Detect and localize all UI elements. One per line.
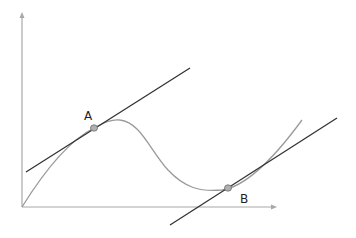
x-axis-arrow-icon xyxy=(271,205,277,210)
axes xyxy=(20,12,278,210)
point-a-label: A xyxy=(84,109,93,123)
point-b-marker xyxy=(225,185,232,191)
point-a-marker xyxy=(91,125,98,131)
y-axis-arrow-icon xyxy=(20,12,25,18)
tangent-line-b xyxy=(170,118,337,225)
function-curve xyxy=(22,120,302,207)
point-b-label: B xyxy=(240,192,248,206)
diagram-canvas: A B xyxy=(0,0,356,238)
tangent-line-a xyxy=(26,68,190,172)
